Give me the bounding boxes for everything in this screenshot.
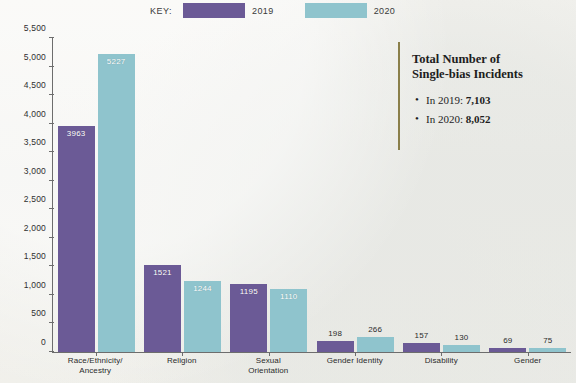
y-tick-label: 4,000: [24, 109, 46, 119]
y-tick-label: 2,000: [24, 223, 46, 233]
bar-value-label: 5227: [107, 57, 126, 66]
bar-2020: 266: [357, 337, 394, 352]
callout-item-2020-value: 8,052: [466, 113, 491, 125]
bar-group: 11951110: [226, 38, 312, 352]
callout-item-2019-prefix: In 2019:: [426, 94, 466, 106]
bar-value-label: 157: [414, 331, 428, 340]
bar-value-label: 266: [368, 325, 382, 334]
legend-key-label: KEY:: [150, 6, 172, 16]
bar-group: 198266: [312, 38, 398, 352]
callout-list: In 2019: 7,103 In 2020: 8,052: [412, 91, 560, 129]
y-tick-label: 5,500: [24, 23, 46, 33]
bar-value-label: 130: [454, 333, 468, 342]
callout-title-line1: Total Number of: [412, 52, 500, 66]
bar-value-label: 3963: [67, 129, 86, 138]
y-tick-label: 5,000: [24, 52, 46, 62]
bar-value-label: 1195: [240, 287, 258, 296]
bar-value-label: 69: [503, 336, 512, 345]
callout-item-2019-value: 7,103: [466, 94, 491, 106]
bar-group: 39635227: [53, 38, 139, 352]
bar-chart: KEY: 2019 2020 5,5005,0004,5004,0003,500…: [0, 0, 576, 383]
bar-2019: 69: [489, 348, 526, 352]
bar-2019: 3963: [58, 126, 95, 352]
x-axis-label: SexualOrientation: [225, 356, 312, 376]
bar-2020: 75: [529, 348, 566, 352]
bar-2020: 5227: [98, 54, 135, 352]
y-tick-label: 500: [31, 308, 46, 318]
y-tick-label: 2,500: [24, 194, 46, 204]
bar-2019: 1521: [144, 265, 181, 352]
legend-label-2020: 2020: [374, 6, 396, 16]
bar-value-label: 1244: [193, 284, 212, 293]
legend-label-2019: 2019: [252, 6, 274, 16]
bar-2019: 1195: [230, 284, 267, 352]
x-axis-label: Race/Ethnicity/Ancestry: [52, 356, 139, 376]
bar-value-label: 75: [543, 336, 552, 345]
bar-2019: 157: [403, 343, 440, 352]
y-tick-label: 4,500: [24, 80, 46, 90]
x-axis-label: Religion: [139, 356, 226, 376]
bar-2020: 130: [443, 345, 480, 352]
bar-2020: 1244: [184, 281, 221, 352]
callout-item-2020-prefix: In 2020:: [426, 113, 466, 125]
y-tick-label: 1,000: [24, 280, 46, 290]
callout-title: Total Number of Single-bias Incidents: [412, 52, 560, 82]
y-tick-label: 3,500: [24, 137, 46, 147]
summary-callout: Total Number of Single-bias Incidents In…: [398, 42, 566, 150]
chart-legend: KEY: 2019 2020: [150, 3, 419, 18]
bar-value-label: 198: [328, 329, 342, 338]
callout-item-2019: In 2019: 7,103: [426, 91, 560, 110]
bar-2019: 198: [317, 341, 354, 352]
x-axis-label: Gender: [485, 356, 572, 376]
x-axis-label: Gender Identity: [312, 356, 399, 376]
bar-value-label: 1110: [280, 292, 297, 301]
callout-title-line2: Single-bias Incidents: [412, 67, 523, 81]
y-tick-label: 3,000: [24, 166, 46, 176]
bar-2020: 1110: [270, 289, 307, 352]
x-axis-labels: Race/Ethnicity/AncestryReligionSexualOri…: [52, 356, 571, 376]
x-axis-label: Disability: [398, 356, 485, 376]
legend-item-2020: 2020: [305, 3, 396, 18]
bar-group: 15211244: [139, 38, 225, 352]
y-tick-label: 0: [41, 337, 46, 347]
legend-swatch-2020: [305, 3, 367, 18]
legend-swatch-2019: [183, 3, 245, 18]
legend-item-2019: 2019: [183, 3, 274, 18]
bar-value-label: 1521: [153, 268, 172, 277]
callout-item-2020: In 2020: 8,052: [426, 110, 560, 129]
y-tick-label: 1,500: [24, 251, 46, 261]
